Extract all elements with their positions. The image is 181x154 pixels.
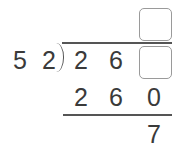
product-digit-3: 0 [144, 85, 164, 110]
dividend-digit-1: 2 [71, 48, 91, 73]
product-digit-2: 6 [106, 85, 126, 110]
divisor-digit-ones: 2 [39, 48, 59, 73]
subtraction-line [63, 114, 172, 116]
quotient-answer-box[interactable] [139, 8, 172, 41]
division-bar [62, 42, 172, 44]
remainder-digit: 7 [144, 122, 164, 147]
dividend-answer-box[interactable] [139, 46, 172, 79]
product-digit-1: 2 [71, 85, 91, 110]
divisor-digit-tens: 5 [10, 48, 30, 73]
dividend-digit-2: 6 [106, 48, 126, 73]
